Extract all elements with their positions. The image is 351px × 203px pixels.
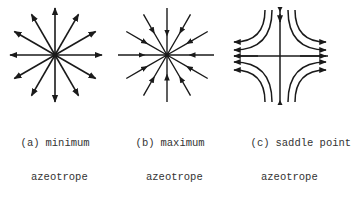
caption-b-tag: (b)	[136, 137, 155, 149]
caption-a-line1: minimum	[46, 137, 90, 149]
azeotrope-diagram	[0, 0, 342, 115]
panel-c-saddle	[234, 7, 328, 105]
caption-c-line1: saddle point	[276, 137, 351, 149]
caption-b-line1: maximum	[161, 137, 205, 149]
caption-c: (c)saddle point azeotrope	[238, 118, 351, 203]
caption-a: (a)minimum azeotrope	[8, 118, 90, 203]
caption-a-line2: azeotrope	[8, 169, 90, 186]
panel-b-node-inward	[118, 8, 214, 102]
caption-b-line2: azeotrope	[123, 169, 205, 186]
caption-b: (b)maximum azeotrope	[123, 118, 205, 203]
caption-c-tag: (c)	[251, 137, 270, 149]
caption-a-tag: (a)	[21, 137, 40, 149]
panel-a-node-outward	[10, 8, 102, 102]
caption-c-line2: azeotrope	[238, 169, 351, 186]
